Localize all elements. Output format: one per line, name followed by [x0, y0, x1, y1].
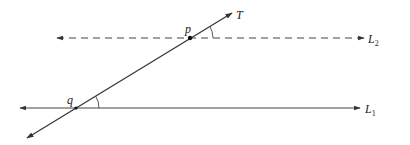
- parallel-lines-diagram: p q T L2 L1: [0, 0, 410, 145]
- label-p: p: [184, 22, 191, 36]
- label-t: T: [236, 8, 244, 22]
- label-l1: L1: [364, 102, 376, 118]
- angle-arc-q: [96, 96, 99, 108]
- label-l2-sub: 2: [375, 39, 379, 48]
- point-p: [188, 36, 192, 40]
- label-l2: L2: [367, 32, 379, 48]
- point-q: [74, 106, 77, 109]
- angle-arc-p: [210, 26, 213, 38]
- label-q: q: [67, 93, 73, 107]
- transversal-t: [27, 13, 232, 138]
- label-l1-sub: 1: [372, 109, 376, 118]
